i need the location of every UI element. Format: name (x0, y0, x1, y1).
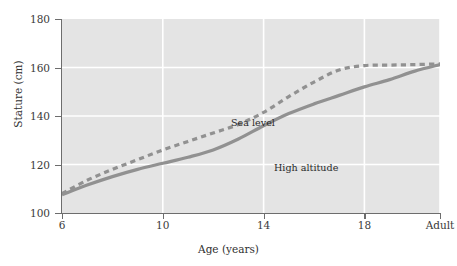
series-annotation-high-altitude: High altitude (274, 162, 338, 173)
y-axis-tick (55, 213, 61, 214)
x-axis-title: Age (years) (0, 243, 457, 255)
y-axis-tick-label: 160 (22, 63, 50, 73)
x-axis-line (61, 213, 441, 214)
y-axis-tick-label: 140 (22, 111, 50, 121)
y-axis-tick (55, 165, 61, 166)
y-axis-tick-label-wrap: 180 (18, 14, 50, 24)
y-axis-tick (55, 68, 61, 69)
y-axis-tick-label-wrap: 100 (18, 208, 50, 218)
growth-curve-figure: Sea level High altitude 100120140160180 … (0, 0, 457, 266)
plot-svg (62, 19, 440, 213)
y-axis-tick-label-wrap: 120 (18, 160, 50, 170)
x-axis-tick-label: 14 (234, 219, 294, 231)
x-axis-tick-label: 18 (334, 219, 394, 231)
x-axis-tick-label: Adult (410, 219, 457, 231)
y-axis-tick (55, 116, 61, 117)
y-axis-line (61, 19, 62, 214)
series-line-high-altitude (62, 65, 440, 195)
x-axis-tick-label: 6 (32, 219, 92, 231)
plot-area: Sea level High altitude (62, 19, 440, 213)
y-axis-tick (55, 19, 61, 20)
series-annotation-sea-level: Sea level (231, 117, 275, 128)
y-axis-tick-label: 100 (22, 208, 50, 218)
gridlines (62, 19, 440, 213)
y-axis-tick-label: 120 (22, 160, 50, 170)
y-axis-title: Stature (cm) (12, 44, 24, 144)
x-axis-tick-label: 10 (133, 219, 193, 231)
series-layer (62, 64, 440, 195)
y-axis-tick-label: 180 (22, 14, 50, 24)
